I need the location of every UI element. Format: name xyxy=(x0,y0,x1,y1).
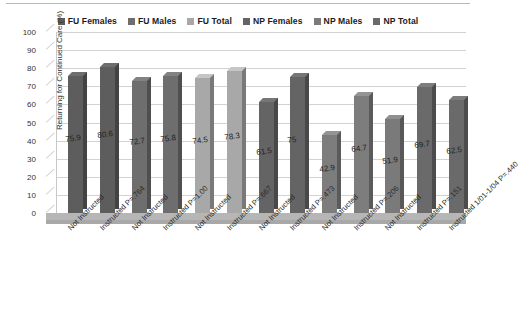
side-wall-tick xyxy=(46,114,55,122)
legend-swatch-icon xyxy=(373,18,380,25)
legend-swatch-icon xyxy=(314,18,321,25)
legend-item[interactable]: NP Females xyxy=(243,16,303,26)
y-tick-label: 20 xyxy=(14,173,36,182)
side-wall-tick xyxy=(46,205,55,213)
legend-label: FU Males xyxy=(138,16,177,26)
side-wall-tick xyxy=(46,187,55,195)
gridline xyxy=(57,68,466,69)
legend-label: NP Males xyxy=(324,16,363,26)
plot-back-wall xyxy=(56,32,466,214)
legend-label: NP Total xyxy=(383,16,418,26)
legend-item[interactable]: NP Males xyxy=(314,16,363,26)
y-tick-label: 50 xyxy=(14,119,36,128)
side-wall-tick xyxy=(46,150,55,158)
gridline xyxy=(57,177,466,178)
y-tick-label: 60 xyxy=(14,100,36,109)
gridline xyxy=(57,141,466,142)
y-axis-title: Returning for Continued Care (%) xyxy=(55,0,64,156)
gridline xyxy=(57,159,466,160)
y-tick-label: 100 xyxy=(14,28,36,37)
legend-swatch-icon xyxy=(187,18,194,25)
gridline xyxy=(57,104,466,105)
legend-swatch-icon xyxy=(128,18,135,25)
side-wall-tick xyxy=(46,42,55,50)
side-wall-tick xyxy=(46,60,55,68)
legend-item[interactable]: FU Males xyxy=(128,16,177,26)
side-wall-tick xyxy=(46,78,55,86)
side-wall-tick xyxy=(46,169,55,177)
y-tick-label: 80 xyxy=(14,64,36,73)
y-tick-label: 90 xyxy=(14,46,36,55)
y-tick-label: 10 xyxy=(14,191,36,200)
legend-item[interactable]: NP Total xyxy=(373,16,418,26)
legend-label: FU Females xyxy=(68,16,117,26)
y-tick-label: 70 xyxy=(14,82,36,91)
legend-label: FU Total xyxy=(197,16,232,26)
side-wall-tick xyxy=(46,96,55,104)
gridline xyxy=(57,123,466,124)
legend-label: NP Females xyxy=(253,16,303,26)
gridline xyxy=(57,32,466,33)
gridline xyxy=(57,50,466,51)
legend-item[interactable]: FU Females xyxy=(58,16,117,26)
x-axis-labels: Not InstructedInstructed P=.764Not Instr… xyxy=(46,226,476,322)
top-divider xyxy=(6,3,470,4)
legend-item[interactable]: FU Total xyxy=(187,16,232,26)
y-axis-ticks: 1009080706050403020100 xyxy=(12,32,36,224)
y-tick-label: 0 xyxy=(14,209,36,218)
chart-legend: FU FemalesFU MalesFU TotalNP FemalesNP M… xyxy=(0,16,476,26)
gridline xyxy=(57,86,466,87)
side-wall-tick xyxy=(46,132,55,140)
y-tick-label: 40 xyxy=(14,137,36,146)
legend-swatch-icon xyxy=(243,18,250,25)
y-tick-label: 30 xyxy=(14,155,36,164)
